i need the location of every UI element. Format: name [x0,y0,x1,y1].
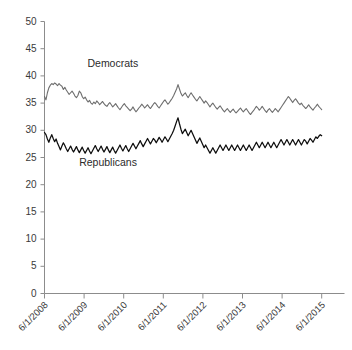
y-tick-label: 10 [25,233,37,244]
y-tick-label: 30 [25,124,37,135]
y-tick-label: 50 [25,16,37,27]
x-axis-labels: 6/1/20086/1/20096/1/20106/1/20116/1/2012… [16,299,327,333]
y-tick-label: 35 [25,97,37,108]
y-tick-label: 40 [25,70,37,81]
x-tick-label: 6/1/2011 [135,299,168,332]
x-axis-ticks [45,294,322,299]
series-label-republicans: Republicans [79,156,137,168]
y-axis-labels: 05101520253035404550 [25,16,37,299]
party-identification-line-chart: 05101520253035404550 6/1/20086/1/20096/1… [0,0,352,350]
chart-container: 05101520253035404550 6/1/20086/1/20096/1… [0,0,352,350]
y-tick-label: 0 [31,288,37,299]
series-label-democrats: Democrats [87,57,138,69]
x-tick-label: 6/1/2015 [293,299,327,333]
x-tick-label: 6/1/2009 [56,299,90,333]
y-tick-label: 15 [25,206,37,217]
series-line-democrats [45,83,322,115]
y-tick-label: 20 [25,179,37,190]
y-tick-label: 25 [25,152,37,163]
x-tick-label: 6/1/2013 [214,299,248,333]
y-axis-ticks [41,22,45,294]
y-tick-label: 45 [25,43,37,54]
x-tick-label: 6/1/2014 [254,299,288,333]
y-tick-label: 5 [31,260,37,271]
x-tick-label: 6/1/2008 [16,299,50,333]
series-line-republicans [45,118,322,154]
x-tick-label: 6/1/2010 [95,299,129,333]
x-tick-label: 6/1/2012 [174,299,208,333]
